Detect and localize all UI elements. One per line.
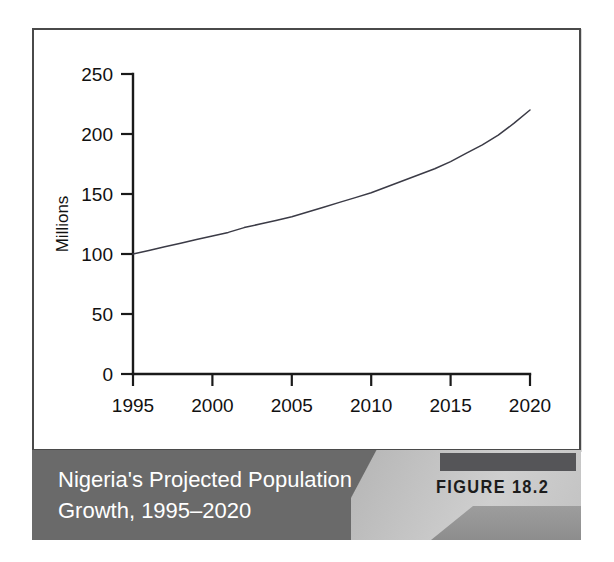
x-axis-ticks: 199520002005201020152020 <box>112 374 551 416</box>
x-tick-label: 2005 <box>271 395 313 416</box>
data-series-line <box>133 110 530 254</box>
x-tick-label: 2020 <box>509 395 551 416</box>
line-chart: 050100150200250 199520002005201020152020… <box>34 30 583 453</box>
y-tick-label: 150 <box>81 184 113 205</box>
y-axis-ticks: 050100150200250 <box>81 64 133 385</box>
y-axis-title: Millions <box>53 196 72 253</box>
x-tick-label: 2000 <box>191 395 233 416</box>
y-tick-label: 250 <box>81 64 113 85</box>
y-tick-label: 200 <box>81 124 113 145</box>
x-tick-label: 2010 <box>350 395 392 416</box>
y-tick-label: 0 <box>102 364 113 385</box>
y-tick-label: 50 <box>92 304 113 325</box>
figure-caption-line-2: Growth, 1995–2020 <box>58 495 423 526</box>
x-tick-label: 2015 <box>429 395 471 416</box>
chart-panel: 050100150200250 199520002005201020152020… <box>32 28 581 451</box>
figure-caption-line-1: Nigeria's Projected Population <box>58 464 423 495</box>
figure-number-band <box>440 453 576 471</box>
x-tick-label: 1995 <box>112 395 154 416</box>
figure-root: 050100150200250 199520002005201020152020… <box>0 0 614 562</box>
figure-number-label: FIGURE 18.2 <box>436 476 574 498</box>
figure-caption-text: Nigeria's Projected Population Growth, 1… <box>58 464 423 526</box>
figure-caption-bar: FIGURE 18.2 Nigeria's Projected Populati… <box>32 450 581 540</box>
y-tick-label: 100 <box>81 244 113 265</box>
